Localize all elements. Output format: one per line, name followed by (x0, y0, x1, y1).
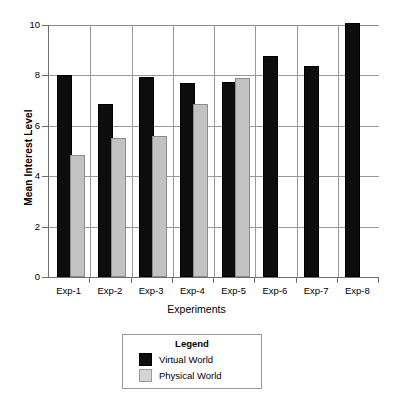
y-tick-label: 0 (0, 272, 40, 282)
gridline-vertical (132, 25, 133, 277)
bar-exp-7-virtual-world (304, 66, 319, 277)
x-tick-mark (378, 278, 379, 283)
plot-area (48, 25, 379, 278)
bar-exp-5-physical-world (235, 78, 250, 277)
x-axis-title: Experiments (0, 303, 393, 315)
x-tick-label-exp-8: Exp-8 (330, 285, 384, 296)
x-tick-mark (337, 278, 338, 283)
bar-exp-2-physical-world (111, 138, 126, 277)
x-tick-mark (296, 278, 297, 283)
gridline-vertical (297, 25, 298, 277)
legend: Legend Virtual WorldPhysical World (122, 334, 262, 389)
y-tick-label: 8 (0, 71, 40, 81)
x-tick-mark (131, 278, 132, 283)
legend-entry-physical: Physical World (139, 369, 222, 382)
x-tick-mark (172, 278, 173, 283)
gridline-vertical (338, 25, 339, 277)
gridline-vertical (173, 25, 174, 277)
y-tick-label: 2 (0, 222, 40, 232)
bar-exp-8-virtual-world (345, 23, 360, 277)
y-tick-label: 4 (0, 171, 40, 181)
legend-swatch-physical (139, 369, 152, 382)
legend-swatch-virtual (139, 353, 152, 366)
bar-exp-3-physical-world (152, 136, 167, 277)
x-tick-mark (89, 278, 90, 283)
gridline-vertical (90, 25, 91, 277)
y-tick-label: 10 (0, 20, 40, 30)
legend-label: Virtual World (159, 355, 213, 365)
x-tick-mark (213, 278, 214, 283)
gridline-vertical (214, 25, 215, 277)
legend-title: Legend (123, 338, 261, 349)
y-tick-label: 6 (0, 121, 40, 131)
x-tick-mark (254, 278, 255, 283)
legend-label: Physical World (159, 371, 222, 381)
bar-exp-4-physical-world (193, 104, 208, 277)
bar-exp-1-physical-world (70, 155, 85, 277)
bar-exp-6-virtual-world (263, 56, 278, 277)
legend-entry-virtual: Virtual World (139, 353, 213, 366)
y-axis-title: Mean Interest Level (23, 68, 34, 248)
bar-chart: Mean Interest Level 0246810 Exp-1Exp-2Ex… (0, 0, 393, 407)
gridline-vertical (255, 25, 256, 277)
